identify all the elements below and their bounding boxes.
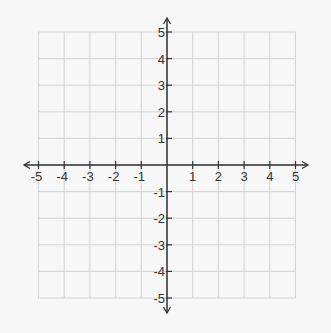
y-tick-label: -3 — [153, 238, 165, 253]
y-tick-label: -1 — [153, 185, 165, 200]
axes — [24, 18, 308, 313]
x-tick-labels: -5-4-3-2-112345 — [31, 169, 299, 184]
y-tick-label: -2 — [153, 211, 165, 226]
x-tick-label: -4 — [56, 169, 68, 184]
x-tick-label: -3 — [82, 169, 94, 184]
y-tick-label: 1 — [158, 131, 165, 146]
y-tick-label: -5 — [153, 291, 165, 306]
x-tick-label: 3 — [240, 169, 247, 184]
y-tick-label: 4 — [158, 52, 165, 67]
x-tick-label: 2 — [215, 169, 222, 184]
x-tick-label: -5 — [31, 169, 43, 184]
y-tick-label: 5 — [158, 25, 165, 40]
y-tick-label: 2 — [158, 105, 165, 120]
coordinate-plane: -5-4-3-2-112345 54321-1-2-3-4-5 — [0, 0, 331, 333]
x-tick-label: 1 — [189, 169, 196, 184]
y-tick-label: -4 — [153, 264, 165, 279]
x-tick-label: 5 — [292, 169, 299, 184]
x-tick-label: -2 — [108, 169, 120, 184]
x-tick-label: -1 — [134, 169, 146, 184]
y-tick-label: 3 — [158, 78, 165, 93]
x-tick-label: 4 — [266, 169, 273, 184]
